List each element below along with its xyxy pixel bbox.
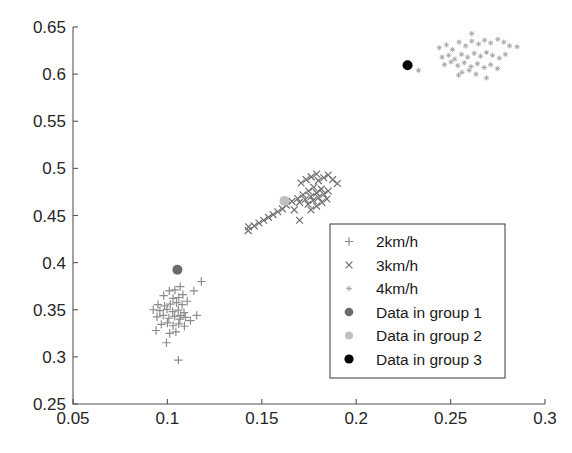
x-tick-label: 0.15	[245, 409, 278, 428]
y-tick-label: 0.45	[33, 207, 66, 226]
data-point-marker	[495, 37, 500, 42]
data-point-marker	[149, 306, 157, 314]
y-tick-label: 0.3	[42, 348, 66, 367]
data-point-marker	[482, 65, 487, 70]
data-point-marker	[473, 72, 478, 77]
data-point-marker	[165, 329, 173, 337]
y-tick-label: 0.65	[33, 18, 66, 37]
data-point-marker	[514, 44, 519, 49]
data-point-marker	[192, 311, 200, 319]
legend-marker-star-icon	[346, 286, 352, 292]
plot-canvas: 0.050.10.150.20.250.30.250.30.350.40.450…	[0, 0, 572, 453]
data-point-marker	[503, 52, 508, 57]
data-point-marker	[159, 291, 167, 299]
data-point-marker	[437, 45, 442, 50]
data-point-marker	[469, 31, 474, 36]
legend-label: Data in group 3	[376, 351, 482, 368]
data-point-marker	[174, 356, 182, 364]
data-point-marker	[162, 339, 170, 347]
data-point-marker	[442, 62, 447, 67]
data-point-marker	[440, 55, 445, 60]
data-point-marker	[152, 326, 160, 334]
data-point-marker	[154, 300, 162, 308]
data-point-marker	[465, 55, 470, 60]
data-point-marker	[478, 54, 483, 59]
centroid-marker	[403, 60, 413, 70]
data-point-marker	[507, 43, 512, 48]
legend-label: 2km/h	[376, 233, 418, 250]
data-point-marker	[472, 51, 477, 56]
x-tick-label: 0.2	[344, 409, 368, 428]
data-point-marker	[463, 43, 468, 48]
data-point-marker	[455, 63, 460, 68]
data-point-marker	[165, 287, 173, 295]
series-3km-h	[245, 171, 341, 234]
data-point-marker	[448, 59, 453, 64]
x-tick-label: 0.1	[156, 409, 180, 428]
centroid-marker	[172, 265, 182, 275]
data-point-marker	[444, 42, 449, 47]
y-tick-label: 0.6	[42, 65, 66, 84]
data-point-marker	[495, 66, 500, 71]
data-point-marker	[459, 52, 464, 57]
series-2km-h	[149, 277, 206, 364]
data-point-marker	[325, 188, 332, 195]
legend-marker-dot-icon	[345, 308, 354, 317]
data-point-marker	[334, 180, 341, 187]
data-point-marker	[476, 41, 481, 46]
data-point-marker	[329, 176, 336, 183]
data-point-marker	[450, 47, 455, 52]
data-point-marker	[467, 68, 472, 73]
data-point-marker	[484, 75, 489, 80]
legend-marker-dot-icon	[344, 354, 353, 363]
data-point-marker	[501, 39, 506, 44]
y-tick-label: 0.4	[42, 254, 66, 273]
data-point-marker	[488, 62, 493, 67]
scatter-plot-figure: 0.050.10.150.20.250.30.250.30.350.40.450…	[0, 0, 572, 453]
legend-marker-dot-icon	[345, 332, 353, 340]
x-tick-label: 0.3	[533, 409, 557, 428]
data-point-marker	[456, 72, 461, 77]
data-point-marker	[446, 53, 451, 58]
legend-label: 3km/h	[376, 257, 418, 274]
series-4km-h	[416, 31, 520, 80]
centroid-marker	[279, 196, 289, 206]
y-tick-label: 0.25	[33, 395, 66, 414]
y-tick-label: 0.55	[33, 112, 66, 131]
data-point-marker	[305, 188, 312, 195]
data-point-marker	[488, 40, 493, 45]
data-point-marker	[245, 227, 252, 234]
data-point-marker	[452, 56, 457, 61]
data-point-marker	[475, 61, 480, 66]
x-tick-label: 0.25	[434, 409, 467, 428]
data-point-marker	[456, 39, 461, 44]
legend-label: Data in group 1	[376, 304, 482, 321]
legend[interactable]: 2km/h3km/h4km/hData in group 1Data in gr…	[330, 224, 505, 378]
data-point-marker	[197, 277, 205, 285]
data-point-marker	[416, 68, 421, 73]
data-point-marker	[462, 60, 467, 65]
data-point-marker	[482, 38, 487, 43]
data-point-marker	[484, 50, 489, 55]
legend-label: Data in group 2	[376, 327, 482, 344]
y-tick-label: 0.35	[33, 301, 66, 320]
legend-label: 4km/h	[376, 280, 418, 297]
y-tick-label: 0.5	[42, 159, 66, 178]
data-point-marker	[469, 39, 474, 44]
data-point-marker	[157, 320, 165, 328]
data-point-marker	[190, 287, 198, 295]
data-point-marker	[296, 217, 303, 224]
data-point-marker	[497, 56, 502, 61]
data-point-marker	[291, 206, 298, 213]
data-point-marker	[490, 53, 495, 58]
